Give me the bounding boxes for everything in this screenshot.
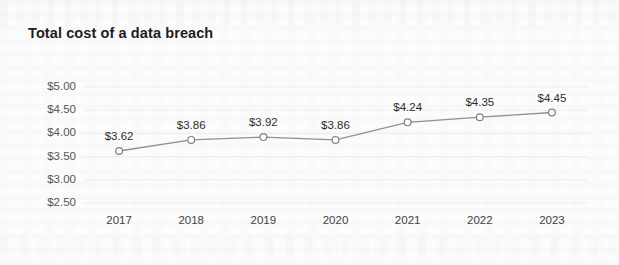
data-point-label: $3.86 <box>177 119 206 131</box>
data-point-label: $3.92 <box>249 116 278 128</box>
data-point-marker[interactable] <box>476 114 483 121</box>
data-point-marker[interactable] <box>332 137 339 144</box>
data-point-marker[interactable] <box>188 137 195 144</box>
x-axis-tick-label: 2018 <box>178 214 204 226</box>
series-markers <box>116 109 556 154</box>
data-point-label: $4.35 <box>465 96 494 108</box>
data-point-label: $4.45 <box>538 92 567 104</box>
x-axis-tick-label: 2021 <box>395 214 421 226</box>
x-axis-tick-label: 2017 <box>106 214 132 226</box>
x-axis-tick-label: 2019 <box>251 214 277 226</box>
data-point-marker[interactable] <box>116 148 123 155</box>
x-axis-tick-label: 2022 <box>467 214 493 226</box>
chart-page: Total cost of a data breach $5.00$4.50$4… <box>0 0 619 265</box>
data-point-marker[interactable] <box>404 119 411 126</box>
x-axis-tick-label: 2023 <box>539 214 565 226</box>
data-point-marker[interactable] <box>549 109 556 116</box>
data-point-label: $3.62 <box>105 130 134 142</box>
data-point-marker[interactable] <box>260 134 267 141</box>
x-axis-tick-label: 2020 <box>323 214 349 226</box>
data-point-label: $4.24 <box>393 101 422 113</box>
line-chart-plot <box>0 0 619 265</box>
data-point-label: $3.86 <box>321 119 350 131</box>
